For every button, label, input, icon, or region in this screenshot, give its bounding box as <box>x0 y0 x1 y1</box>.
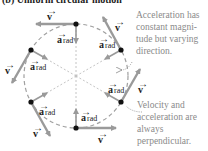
svg-text:→: → <box>81 106 91 117</box>
svg-text:→: → <box>47 5 57 16</box>
annotation-perpendicular: Velocity and acceleration are always per… <box>137 99 208 147</box>
svg-text:→: → <box>98 128 108 139</box>
svg-text:→: → <box>5 59 15 70</box>
svg-text:→: → <box>115 16 125 27</box>
svg-text:→: → <box>30 55 40 66</box>
acceleration-arrow-upper-right <box>105 50 121 59</box>
svg-text:→: → <box>99 33 109 44</box>
svg-text:→: → <box>108 78 118 89</box>
svg-text:→: → <box>57 28 67 39</box>
svg-text:→: → <box>39 100 49 111</box>
svg-text:→: → <box>138 78 148 89</box>
annotation-acceleration: Acceleration has constant magni-tude but… <box>136 9 208 57</box>
svg-text:→: → <box>33 122 43 133</box>
